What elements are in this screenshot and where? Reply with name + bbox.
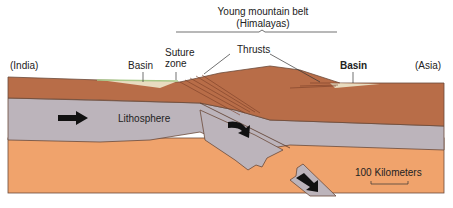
himalayas-label: (Himalayas) xyxy=(208,18,318,29)
thrusts-label: Thrusts xyxy=(237,44,270,55)
scale-label: 100 Kilometers xyxy=(355,167,422,178)
zone-label: zone xyxy=(165,58,187,69)
suture-label: Suture xyxy=(165,47,194,58)
basin-left-label: Basin xyxy=(128,60,153,71)
india-label: (India) xyxy=(10,60,38,71)
basin-right-label: Basin xyxy=(340,60,367,71)
thrusts-leader-left xyxy=(204,54,230,74)
mountain-belt-title: Young mountain belt xyxy=(208,6,318,17)
asia-label: (Asia) xyxy=(415,60,441,71)
mountain-belt-bracket xyxy=(176,30,337,32)
lithosphere-label: Lithosphere xyxy=(118,113,170,124)
basin-green-line xyxy=(97,80,178,81)
